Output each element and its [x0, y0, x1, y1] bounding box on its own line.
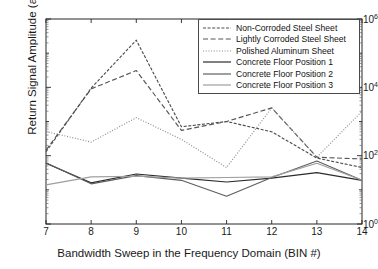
- x-tick-label: 7: [36, 226, 56, 237]
- legend-item-label: Non-Corroded Steel Sheet: [236, 23, 337, 33]
- legend-item[interactable]: Lightly Corroded Steel Sheet: [202, 34, 356, 46]
- legend-item-label: Concrete Floor Position 3: [236, 80, 333, 90]
- chart-legend: Non-Corroded Steel SheetLightly Corroded…: [198, 19, 360, 94]
- series-line: [46, 163, 362, 183]
- x-tick-label: 11: [217, 226, 237, 237]
- legend-item-label: Concrete Floor Position 2: [236, 69, 333, 79]
- x-tick-label: 14: [352, 226, 372, 237]
- legend-item[interactable]: Polished Aluminum Sheet: [202, 45, 356, 57]
- x-axis-title: Bandwidth Sweep in the Frequency Domain …: [0, 247, 378, 259]
- legend-item-label: Concrete Floor Position 1: [236, 57, 333, 67]
- x-tick-label: 10: [171, 226, 191, 237]
- legend-item[interactable]: Concrete Floor Position 2: [202, 68, 356, 80]
- legend-item-label: Lightly Corroded Steel Sheet: [236, 34, 346, 44]
- legend-item[interactable]: Concrete Floor Position 3: [202, 80, 356, 92]
- series-line: [46, 163, 362, 185]
- legend-line-sample: [202, 23, 232, 33]
- series-line: [46, 108, 362, 168]
- legend-item-label: Polished Aluminum Sheet: [236, 46, 334, 56]
- series-line: [46, 161, 362, 196]
- y-axis-title: Return Signal Amplitude (a.u.): [26, 0, 38, 158]
- legend-line-sample: [202, 69, 232, 79]
- legend-line-sample: [202, 34, 232, 44]
- chart-figure: 106 104 102 100 7891011121314 Return Sig…: [0, 0, 378, 269]
- x-tick-label: 13: [307, 226, 327, 237]
- legend-line-sample: [202, 80, 232, 90]
- legend-line-sample: [202, 46, 232, 56]
- y-tick-label: 102: [352, 151, 378, 160]
- x-tick-label: 8: [81, 226, 101, 237]
- x-tick-label: 9: [126, 226, 146, 237]
- x-tick-label: 12: [262, 226, 282, 237]
- legend-item[interactable]: Concrete Floor Position 1: [202, 57, 356, 69]
- legend-item[interactable]: Non-Corroded Steel Sheet: [202, 22, 356, 34]
- legend-line-sample: [202, 57, 232, 67]
